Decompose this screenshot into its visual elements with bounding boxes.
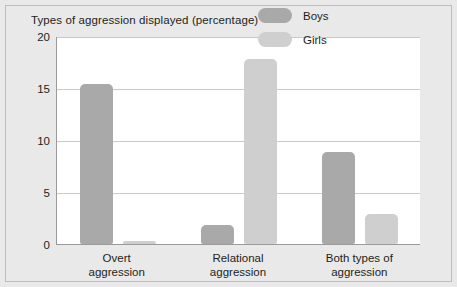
bar-boys-2 (322, 152, 355, 244)
y-axis-tick-label: 0 (44, 239, 50, 251)
legend-swatch-boys (258, 8, 292, 23)
plot-area (56, 37, 420, 245)
y-axis-tick-labels: 05101520 (20, 37, 50, 245)
chart-title: Types of aggression displayed (percentag… (31, 14, 258, 26)
legend-item-girls: Girls (258, 32, 358, 47)
chart-figure: Types of aggression displayed (percentag… (0, 0, 457, 287)
bar-boys-1 (201, 225, 234, 244)
bar-boys-0 (80, 84, 113, 244)
legend-label-girls: Girls (303, 34, 327, 46)
y-axis-tick-label: 10 (37, 135, 50, 147)
legend-swatch-girls (258, 32, 292, 47)
legend-label-boys: Boys (303, 10, 329, 22)
y-axis-tick-label: 15 (37, 83, 50, 95)
x-axis-category-label: Relational aggression (178, 251, 298, 280)
legend-item-boys: Boys (258, 8, 358, 23)
x-axis-category-label: Both types of aggression (299, 251, 419, 280)
bar-girls-0 (123, 241, 156, 244)
gridline (57, 37, 420, 38)
chart-legend: Boys Girls (258, 8, 358, 56)
bar-girls-1 (244, 59, 277, 244)
x-axis-category-label: Overt aggression (57, 251, 177, 280)
y-axis-tick-label: 5 (44, 187, 50, 199)
y-axis-tick-label: 20 (37, 31, 50, 43)
bar-girls-2 (365, 214, 398, 244)
